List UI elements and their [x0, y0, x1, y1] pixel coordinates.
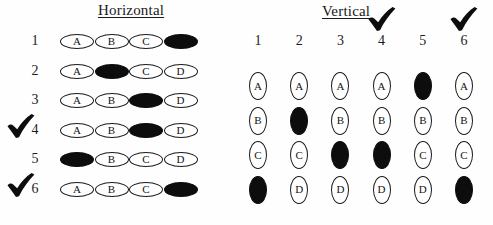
bubble-vertical-1-B[interactable]: B	[249, 107, 267, 135]
bubble-vertical-2-D[interactable]: D	[290, 176, 308, 204]
bubble-horizontal-6-C[interactable]: C	[129, 182, 163, 197]
bubble-vertical-4-D[interactable]: D	[373, 176, 391, 204]
bubble-horizontal-4-A[interactable]: A	[60, 123, 94, 138]
bubble-vertical-5-D[interactable]: D	[414, 176, 432, 204]
bubble-horizontal-4-B[interactable]: B	[95, 123, 129, 138]
bubble-horizontal-5-A[interactable]: A	[60, 152, 94, 167]
vertical-column-number-2: 2	[292, 33, 306, 49]
vertical-column-number-1: 1	[251, 33, 265, 49]
horizontal-row-number-4: 4	[28, 122, 42, 138]
bubble-horizontal-1-C[interactable]: C	[129, 34, 163, 49]
bubble-vertical-2-A[interactable]: A	[290, 72, 308, 100]
check-mark-icon-vertical-column-6	[449, 6, 479, 32]
bubble-vertical-2-C[interactable]: C	[290, 141, 308, 169]
horizontal-row-number-3: 3	[28, 92, 42, 108]
horizontal-row-number-5: 5	[28, 151, 42, 167]
bubble-horizontal-3-C[interactable]: C	[129, 93, 163, 108]
bubble-vertical-2-B[interactable]: B	[290, 107, 308, 135]
vertical-column-number-4: 4	[375, 33, 389, 49]
horizontal-row-number-2: 2	[28, 63, 42, 79]
bubble-vertical-6-B[interactable]: B	[455, 107, 473, 135]
bubble-vertical-3-D[interactable]: D	[331, 176, 349, 204]
bubble-vertical-3-B[interactable]: B	[331, 107, 349, 135]
bubble-horizontal-3-B[interactable]: B	[95, 93, 129, 108]
bubble-horizontal-3-D[interactable]: D	[164, 93, 198, 108]
check-mark-icon-vertical-column-4	[367, 6, 397, 32]
bubble-horizontal-3-A[interactable]: A	[60, 93, 94, 108]
bubble-horizontal-4-D[interactable]: D	[164, 123, 198, 138]
bubble-vertical-4-A[interactable]: A	[373, 72, 391, 100]
vertical-column-number-3: 3	[333, 33, 347, 49]
bubble-horizontal-6-A[interactable]: A	[60, 182, 94, 197]
bubble-horizontal-6-B[interactable]: B	[95, 182, 129, 197]
answer-sheet-figure: Horizontal 1ABCD2ABCD3ABCD4ABCD5ABCD6ABC…	[0, 0, 493, 225]
vertical-column-number-6: 6	[457, 33, 471, 49]
bubble-horizontal-5-D[interactable]: D	[164, 152, 198, 167]
bubble-horizontal-1-D[interactable]: D	[164, 34, 198, 49]
bubble-vertical-4-C[interactable]: C	[373, 141, 391, 169]
bubble-horizontal-2-D[interactable]: D	[164, 64, 198, 79]
bubble-horizontal-5-C[interactable]: C	[129, 152, 163, 167]
bubble-horizontal-1-A[interactable]: A	[60, 34, 94, 49]
bubble-vertical-4-B[interactable]: B	[373, 107, 391, 135]
bubble-horizontal-2-A[interactable]: A	[60, 64, 94, 79]
bubble-horizontal-2-B[interactable]: B	[95, 64, 129, 79]
bubble-horizontal-2-C[interactable]: C	[129, 64, 163, 79]
horizontal-row-number-1: 1	[28, 33, 42, 49]
horizontal-section-title: Horizontal	[98, 2, 164, 19]
bubble-vertical-5-A[interactable]: A	[414, 72, 432, 100]
bubble-vertical-3-A[interactable]: A	[331, 72, 349, 100]
bubble-vertical-6-C[interactable]: C	[455, 141, 473, 169]
bubble-vertical-1-D[interactable]: D	[249, 176, 267, 204]
vertical-column-number-5: 5	[416, 33, 430, 49]
bubble-vertical-1-A[interactable]: A	[249, 72, 267, 100]
bubble-vertical-6-D[interactable]: D	[455, 176, 473, 204]
bubble-vertical-3-C[interactable]: C	[331, 141, 349, 169]
bubble-horizontal-5-B[interactable]: B	[95, 152, 129, 167]
bubble-horizontal-1-B[interactable]: B	[95, 34, 129, 49]
bubble-vertical-5-C[interactable]: C	[414, 141, 432, 169]
bubble-horizontal-6-D[interactable]: D	[164, 182, 198, 197]
bubble-horizontal-4-C[interactable]: C	[129, 123, 163, 138]
bubble-vertical-5-B[interactable]: B	[414, 107, 432, 135]
bubble-vertical-1-C[interactable]: C	[249, 141, 267, 169]
horizontal-row-number-6: 6	[28, 181, 42, 197]
vertical-section-title: Vertical	[322, 3, 370, 20]
bubble-vertical-6-A[interactable]: A	[455, 72, 473, 100]
